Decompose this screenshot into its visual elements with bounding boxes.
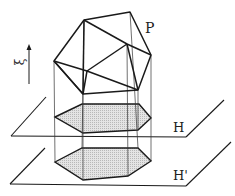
label-plane-h: H (173, 120, 184, 135)
label-plane-h-prime: H' (173, 168, 188, 183)
label-direction: ξ (13, 59, 27, 66)
projection-h-prime (55, 148, 151, 180)
label-polytope: P (145, 20, 154, 36)
diagram-svg (0, 0, 235, 196)
polytope-p (54, 12, 151, 94)
diagram-canvas: P ξ H H' (0, 0, 235, 196)
